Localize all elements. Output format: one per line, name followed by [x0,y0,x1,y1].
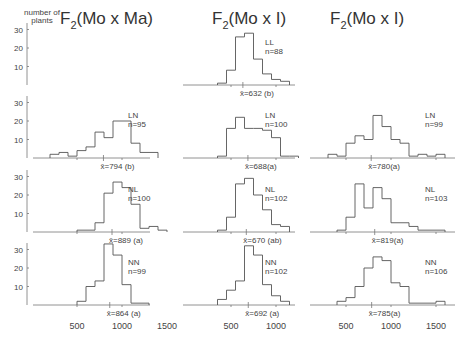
y-tick-label: 20 [14,44,23,53]
histogram-panel-nn: x̄=785(a)NNn=106 [310,257,455,318]
mean-label: x̄=670 (ab) [243,236,282,245]
histogram-panel-ln: x̄=794 (b)LNn=95 [33,111,158,171]
y-tick-label: 20 [14,264,23,273]
histogram-bars [218,33,290,85]
x-tick-label: 500 [338,321,353,331]
sample-size-label: n=106 [425,267,448,276]
sample-size-label: n=102 [265,194,288,203]
y-tick-label: 30 [14,99,23,108]
y-axis-label: number ofplants [24,8,61,25]
mean-label: x̄=632 (b) [240,89,274,98]
mean-label: x̄=889 (a) [109,236,143,245]
y-axis: 102030 [14,23,29,85]
y-axis: 102030 [14,170,29,232]
sample-size-label: n=100 [265,120,288,129]
histogram-panel-nn: x̄=864 (a)NNn=99 [33,244,150,318]
column-title: F2(Mo x I) [212,9,286,31]
histogram-panel-nl: x̄=889 (a)NLn=100 [33,182,167,245]
sample-size-label: n=95 [128,120,147,129]
histogram-panel-ll: x̄=632 (b)LLn=88 [183,33,295,98]
sample-size-label: n=99 [128,267,147,276]
genotype-label: LN [128,111,138,120]
genotype-label: NL [128,185,139,194]
genotype-label: LL [265,38,274,47]
genotype-label: NN [265,258,277,267]
sample-size-label: n=102 [265,267,288,276]
y-tick-label: 20 [14,117,23,126]
mean-label: x̄=688(a) [245,162,277,171]
mean-label: x̄=794 (b) [100,162,134,171]
column-title: F2(Mo x Ma) [60,9,153,31]
x-tick-label: 1000 [112,321,132,331]
mean-label: x̄=692 (a) [245,309,279,318]
mean-label: x̄=819(a) [372,236,404,245]
y-tick-label: 10 [14,63,23,72]
x-tick-label: 500 [223,321,238,331]
sample-size-label: n=99 [425,120,444,129]
sample-size-label: n=88 [265,47,284,56]
y-axis: 102030 [14,96,29,158]
y-tick-label: 10 [14,136,23,145]
x-tick-label: 1500 [157,321,177,331]
y-tick-label: 30 [14,173,23,182]
histogram-panel-ln: x̄=780(a)LNn=99 [310,111,455,171]
genotype-label: LN [425,111,435,120]
mean-label: x̄=864 (a) [107,309,141,318]
x-tick-label: 1500 [426,321,446,331]
histogram-panel-ln: x̄=688(a)LNn=100 [183,111,299,171]
y-tick-label: 30 [14,26,23,35]
x-tick-label: 1000 [266,321,286,331]
y-tick-label: 20 [14,191,23,200]
sample-size-label: n=103 [425,194,448,203]
x-tick-label: 500 [69,321,84,331]
column-title: F2(Mo x I) [330,9,404,31]
histogram-bars [77,182,167,232]
histogram-bars [218,178,290,232]
y-tick-label: 10 [14,210,23,219]
histogram-panel-nl: x̄=670 (ab)NLn=102 [183,178,295,245]
y-tick-label: 10 [14,283,23,292]
histogram-panel-nl: x̄=819(a)NLn=103 [310,184,455,245]
histogram-figure: F2(Mo x Ma)F2(Mo x I)F2(Mo x I)number of… [0,0,465,343]
genotype-label: NN [128,258,140,267]
mean-label: x̄=780(a) [368,162,400,171]
genotype-label: NN [425,258,437,267]
genotype-label: NL [265,185,276,194]
genotype-label: LN [265,111,275,120]
histogram-panel-nn: x̄=692 (a)NNn=102 [183,246,295,318]
sample-size-label: n=100 [128,194,151,203]
genotype-label: NL [425,185,436,194]
y-axis: 102030 [14,243,29,305]
x-tick-label: 1000 [381,321,401,331]
mean-label: x̄=785(a) [369,309,401,318]
y-tick-label: 30 [14,246,23,255]
